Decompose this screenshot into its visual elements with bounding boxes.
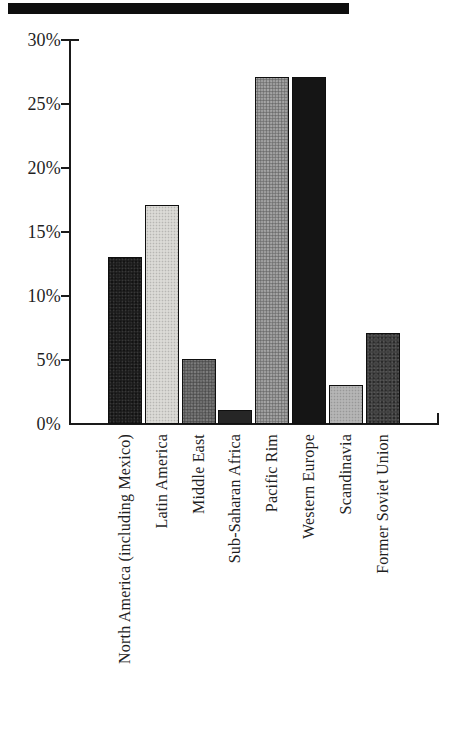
y-tick-30% xyxy=(61,39,69,41)
bar-middle-east xyxy=(182,359,216,424)
category-label-latin-america: Latin America xyxy=(153,434,171,529)
category-label-middle-east: Middle East xyxy=(190,434,208,514)
y-tick-label-20: 20% xyxy=(13,158,61,178)
y-tick-25% xyxy=(61,103,69,105)
category-label-sub-saharan-africa: Sub-Saharan Africa xyxy=(226,434,244,563)
category-label-scandinavia: Scandinavia xyxy=(337,434,355,514)
y-tick-label-30: 30% xyxy=(13,30,61,50)
bar-north-america-including-mexico xyxy=(108,257,142,424)
bar-scandinavia xyxy=(329,385,363,424)
y-tick-10% xyxy=(61,295,69,297)
bar-former-soviet-union xyxy=(366,333,400,424)
y-tick-label-10: 10% xyxy=(13,286,61,306)
category-label-pacific-rim: Pacific Rim xyxy=(263,434,281,512)
y-tick-label-5: 5% xyxy=(13,350,61,370)
y-tick-label-25: 25% xyxy=(13,94,61,114)
scan-artifact-bar xyxy=(8,3,349,14)
y-tick-label-0: 0% xyxy=(13,414,61,434)
y-tick-label-15: 15% xyxy=(13,222,61,242)
x-axis-end-stub xyxy=(437,413,439,425)
category-label-north-america-including-mexico: North America (including Mexico) xyxy=(116,434,134,664)
y-tick-5% xyxy=(61,359,69,361)
bar-pacific-rim xyxy=(255,77,289,424)
y-axis-top-stub xyxy=(69,39,79,41)
bar-latin-america xyxy=(145,205,179,424)
category-label-western-europe: Western Europe xyxy=(300,434,318,539)
bar-sub-saharan-africa xyxy=(218,410,252,424)
category-label-former-soviet-union: Former Soviet Union xyxy=(374,434,392,574)
bar-chart-figure: 0%5%10%15%20%25%30%North America (includ… xyxy=(0,0,467,731)
y-tick-20% xyxy=(61,167,69,169)
bar-western-europe xyxy=(292,77,326,424)
y-axis-line xyxy=(69,39,71,425)
y-tick-15% xyxy=(61,231,69,233)
